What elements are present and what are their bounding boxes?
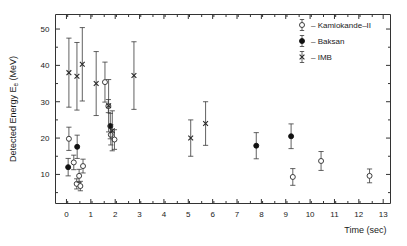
x-tick-label: 7 [235,210,240,219]
y-tick-label: 40 [41,61,50,70]
legend-item-imb[interactable]: – IMB [300,52,332,63]
scatter-chart: 0123456789101112131020304050 – Kamiokand… [0,0,407,246]
legend-item-kamiokande-ii[interactable]: – Kamiokande–II [300,20,372,31]
x-tick-label: 4 [162,210,167,219]
y-axis-title: Detected Energy Ee (MeV) [8,56,19,162]
data-point-open-circle [81,164,86,169]
data-point-filled-circle [66,165,71,170]
data-point-group [290,169,295,186]
data-point-group [131,42,136,110]
legend-label: – Baksan [311,37,344,46]
data-point-filled-circle [300,39,305,44]
plot-area: 0123456789101112131020304050 – Kamiokand… [0,0,407,246]
x-tick-label: 1 [89,210,94,219]
y-tick-label: 10 [41,170,50,179]
y-tick-label: 20 [41,134,50,143]
data-point-group [203,102,208,146]
x-tick-label: 10 [306,210,315,219]
data-point-group [77,169,82,182]
y-tick-label: 30 [41,98,50,107]
data-point-open-circle [300,23,305,28]
x-tick-label: 3 [137,210,142,219]
data-point-group [367,169,372,183]
data-point-filled-circle [254,143,259,148]
data-point-group [80,159,85,173]
data-point-group [188,120,193,156]
data-point-group [66,158,71,175]
y-tick-label: 50 [41,25,50,34]
data-point-open-circle [367,173,372,178]
legend-label: – Kamiokande–II [311,21,371,30]
x-tick-label: 9 [284,210,289,219]
x-tick-label: 12 [354,210,363,219]
data-point-open-circle [78,184,83,189]
x-tick-label: 8 [259,210,264,219]
x-tick-label: 11 [330,210,339,219]
legend-label: – IMB [311,53,332,62]
series-baksan [66,113,294,176]
data-point-open-circle [102,80,107,85]
svg-text:Detected Energy Ee (MeV): Detected Energy Ee (MeV) [8,56,19,162]
axis-titles: Time (sec)Detected Energy Ee (MeV) [8,56,387,235]
data-point-filled-circle [75,144,80,149]
data-point-open-circle [71,160,76,165]
data-point-open-circle [112,137,117,142]
data-point-filled-circle [289,134,294,139]
data-point-group [71,155,76,170]
x-axis-title: Time (sec) [344,225,386,235]
x-tick-label: 6 [210,210,215,219]
series-imb [66,28,208,157]
x-tick-label: 0 [64,210,69,219]
data-point-open-circle [319,158,324,163]
data-point-group [66,38,71,107]
data-point-group [66,127,71,150]
data-point-group [94,52,99,116]
data-point-group [102,62,107,102]
data-point-open-circle [290,174,295,179]
data-point-group [74,42,79,110]
data-point-open-circle [77,173,82,178]
chart-legend: – Kamiokande–II– Baksan– IMB [300,20,372,63]
data-point-group [318,152,323,171]
x-tick-label: 2 [113,210,118,219]
data-point-group [254,133,259,159]
legend-item-baksan[interactable]: – Baksan [300,36,345,47]
data-point-group [80,28,85,101]
x-tick-label: 13 [379,210,388,219]
data-point-group [288,124,293,149]
x-tick-label: 5 [186,210,191,219]
data-point-open-circle [66,136,71,141]
